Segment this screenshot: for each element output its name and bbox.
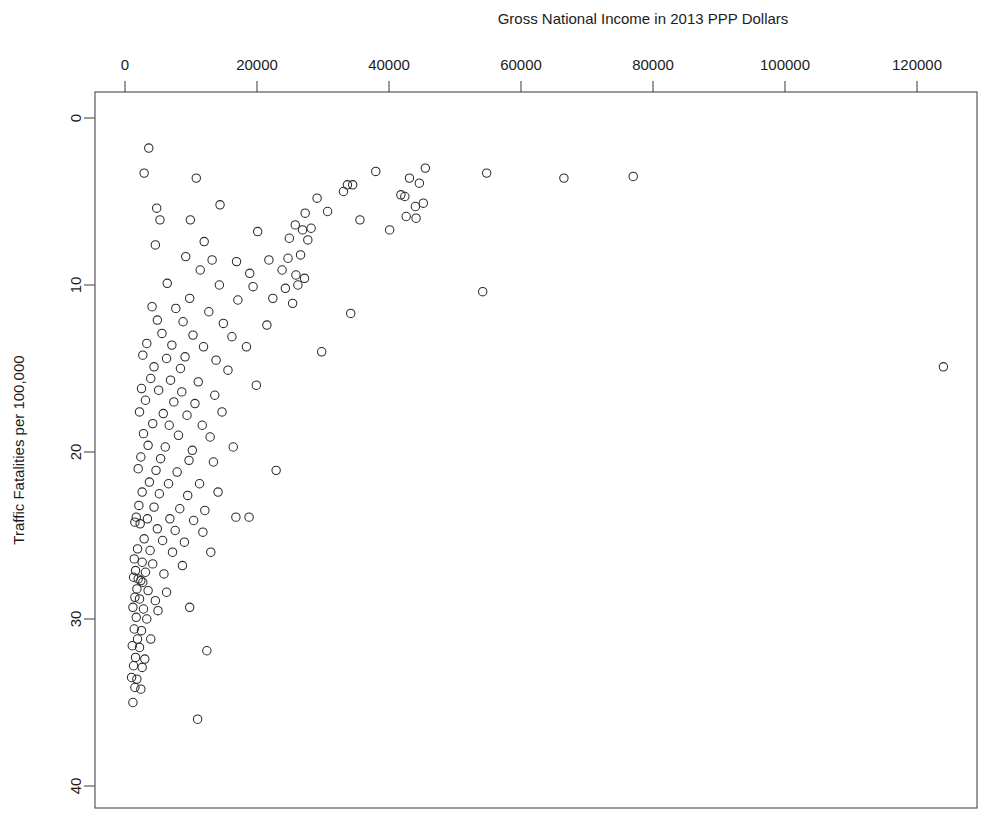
- data-point: [158, 329, 166, 337]
- data-point: [185, 294, 193, 302]
- data-point: [200, 237, 208, 245]
- data-point: [165, 421, 173, 429]
- data-point: [180, 538, 188, 546]
- x-tick-label: 40000: [368, 56, 410, 73]
- data-point: [141, 568, 149, 576]
- data-point: [136, 520, 144, 528]
- data-point: [301, 209, 309, 217]
- data-point: [154, 386, 162, 394]
- data-point: [135, 501, 143, 509]
- data-point: [214, 488, 222, 496]
- data-point: [166, 515, 174, 523]
- data-point: [199, 528, 207, 536]
- data-point: [133, 545, 141, 553]
- y-axis-title: Traffic Fatalities per 100,000: [10, 355, 27, 544]
- data-point: [419, 199, 427, 207]
- x-axis-title: Gross National Income in 2013 PPP Dollar…: [498, 10, 789, 27]
- data-point: [411, 202, 419, 210]
- data-point: [242, 343, 250, 351]
- data-point: [152, 466, 160, 474]
- data-point: [186, 216, 194, 224]
- data-point: [194, 378, 202, 386]
- data-point: [160, 570, 168, 578]
- data-point: [206, 433, 214, 441]
- data-point: [166, 376, 174, 384]
- data-point: [224, 366, 232, 374]
- data-point: [161, 443, 169, 451]
- y-tick-label: 0: [67, 114, 84, 122]
- data-point: [135, 408, 143, 416]
- data-point: [195, 480, 203, 488]
- data-point: [137, 453, 145, 461]
- data-point: [137, 384, 145, 392]
- data-point: [170, 398, 178, 406]
- data-point: [193, 715, 201, 723]
- data-point: [482, 169, 490, 177]
- x-axis-ticks: 020000400006000080000100000120000: [121, 56, 942, 92]
- data-point: [560, 174, 568, 182]
- data-point: [205, 308, 213, 316]
- data-point: [234, 296, 242, 304]
- data-point: [135, 595, 143, 603]
- data-point: [402, 212, 410, 220]
- y-tick-label: 30: [67, 611, 84, 628]
- data-point: [183, 411, 191, 419]
- plot-frame: [95, 92, 977, 808]
- x-tick-label: 80000: [632, 56, 674, 73]
- data-point: [278, 266, 286, 274]
- data-point: [139, 605, 147, 613]
- data-point: [288, 299, 296, 307]
- data-points-layer: [127, 144, 947, 724]
- data-point: [284, 254, 292, 262]
- data-point: [298, 226, 306, 234]
- data-point: [939, 363, 947, 371]
- data-point: [339, 187, 347, 195]
- data-point: [232, 513, 240, 521]
- data-point: [145, 144, 153, 152]
- data-point: [229, 443, 237, 451]
- data-point: [174, 431, 182, 439]
- data-point: [245, 513, 253, 521]
- data-point: [139, 429, 147, 437]
- data-point: [253, 227, 261, 235]
- data-point: [144, 441, 152, 449]
- data-point: [131, 653, 139, 661]
- data-point: [323, 207, 331, 215]
- data-point: [385, 226, 393, 234]
- data-point: [192, 174, 200, 182]
- data-point: [139, 351, 147, 359]
- data-point: [143, 339, 151, 347]
- y-tick-label: 20: [67, 444, 84, 461]
- data-point: [158, 536, 166, 544]
- data-point: [162, 588, 170, 596]
- data-point: [189, 331, 197, 339]
- data-point: [228, 333, 236, 341]
- data-point: [185, 603, 193, 611]
- data-point: [317, 348, 325, 356]
- data-point: [208, 256, 216, 264]
- data-point: [137, 685, 145, 693]
- data-point: [140, 535, 148, 543]
- data-point: [252, 381, 260, 389]
- data-point: [164, 480, 172, 488]
- scatter-plot-figure: Gross National Income in 2013 PPP Dollar…: [0, 0, 996, 833]
- data-point: [151, 596, 159, 604]
- data-point: [184, 491, 192, 499]
- data-point: [211, 391, 219, 399]
- data-point: [146, 546, 154, 554]
- plot-border: [95, 92, 977, 808]
- data-point: [265, 256, 273, 264]
- x-tick-label: 100000: [760, 56, 810, 73]
- data-point: [159, 409, 167, 417]
- data-point: [133, 585, 141, 593]
- x-tick-label: 0: [121, 56, 129, 73]
- x-tick-label: 60000: [500, 56, 542, 73]
- data-point: [134, 465, 142, 473]
- data-point: [263, 321, 271, 329]
- data-point: [163, 279, 171, 287]
- data-point: [127, 673, 135, 681]
- data-point: [150, 363, 158, 371]
- data-point: [218, 408, 226, 416]
- data-point: [141, 396, 149, 404]
- data-point: [129, 603, 137, 611]
